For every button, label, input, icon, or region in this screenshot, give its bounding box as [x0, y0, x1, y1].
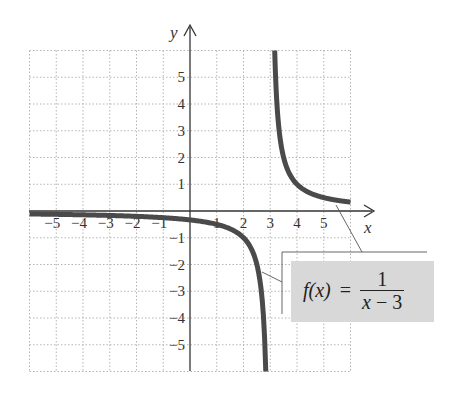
formula-numerator: 1 [377, 268, 387, 290]
svg-text:−5: −5 [44, 215, 60, 231]
formula-denominator: x − 3 [360, 290, 404, 313]
svg-text:−1: −1 [169, 230, 185, 246]
svg-text:4: 4 [293, 215, 301, 231]
svg-text:−3: −3 [169, 283, 185, 299]
svg-text:4: 4 [178, 96, 186, 112]
curve-right-branch [275, 51, 351, 203]
formula-denominator-var: x [362, 291, 371, 313]
svg-text:1: 1 [178, 176, 186, 192]
callout-leader-left [262, 272, 282, 282]
callout-leader-right [336, 205, 362, 252]
svg-text:3: 3 [267, 215, 275, 231]
svg-text:5: 5 [320, 215, 328, 231]
function-label: f(x) = 1 x − 3 [303, 268, 404, 313]
y-axis-label: y [168, 23, 178, 42]
x-axis-label: x [363, 218, 372, 237]
svg-text:−2: −2 [169, 257, 185, 273]
svg-text:−4: −4 [71, 215, 87, 231]
formula-fraction: 1 x − 3 [360, 268, 404, 313]
svg-text:5: 5 [178, 69, 186, 85]
svg-text:−5: −5 [169, 337, 185, 353]
svg-text:2: 2 [178, 150, 186, 166]
chart-canvas: y x −5−4−3−2−112345 54321−1−2−3−4−5 [0, 0, 458, 393]
svg-text:3: 3 [178, 123, 186, 139]
formula-lhs: f(x) [303, 279, 331, 302]
svg-text:2: 2 [240, 215, 248, 231]
svg-text:−4: −4 [169, 310, 185, 326]
formula-equals: = [340, 279, 351, 302]
formula-denominator-rest: − 3 [371, 291, 402, 313]
